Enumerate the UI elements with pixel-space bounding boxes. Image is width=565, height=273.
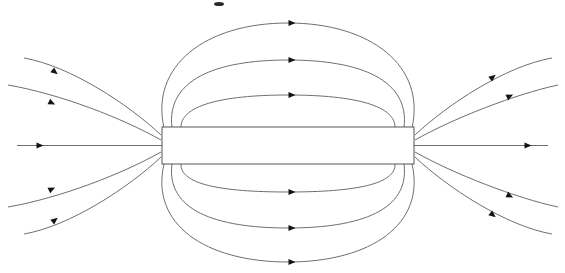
bar-magnet: [162, 127, 414, 164]
magnetic-field-diagram: [0, 0, 565, 273]
annotations-group: [214, 2, 224, 6]
field-line-canvas: [0, 0, 565, 273]
top-edge-speck: [214, 2, 224, 6]
